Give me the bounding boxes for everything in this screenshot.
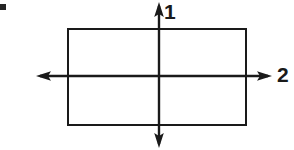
horizontal-axis-label: 2 [277, 64, 289, 85]
diagram-svg [0, 0, 294, 150]
figure-canvas: 1 2 [0, 0, 294, 150]
scan-artifact-mark [0, 4, 6, 10]
vertical-axis-label: 1 [164, 1, 176, 22]
